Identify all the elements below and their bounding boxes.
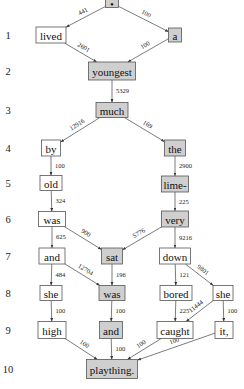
node-word: plaything. bbox=[90, 364, 135, 376]
node-word: it, bbox=[220, 325, 229, 337]
node-word: down bbox=[163, 251, 188, 263]
node-word: • bbox=[110, 0, 114, 10]
edge-arrow bbox=[223, 301, 224, 322]
edge-weight-label: 484 bbox=[55, 271, 65, 278]
edge-weight-label: 121 bbox=[180, 271, 190, 278]
edge-weight-label: 12704 bbox=[77, 262, 95, 277]
node-the: the bbox=[165, 140, 186, 156]
node-word: very bbox=[165, 214, 185, 226]
row-labels: 12345678910 bbox=[3, 30, 14, 375]
edge-arrow bbox=[175, 264, 176, 286]
edge-weight-label: 441 bbox=[77, 6, 89, 17]
node-word: a bbox=[173, 30, 178, 42]
row-label: 5 bbox=[5, 178, 10, 189]
row-label: 3 bbox=[5, 105, 10, 116]
node-word: lived bbox=[40, 30, 62, 42]
edge-weight-label: 12916 bbox=[68, 117, 86, 132]
node-a: a bbox=[169, 28, 182, 42]
edge-weight-label: 100 bbox=[135, 338, 147, 349]
node-plaything: plaything. bbox=[87, 360, 138, 379]
edge-weight-label: 196 bbox=[116, 271, 127, 278]
node-word: by bbox=[46, 143, 58, 155]
node-word: sat bbox=[106, 251, 118, 263]
edge-arrow bbox=[111, 301, 112, 322]
node-old: old bbox=[40, 176, 62, 191]
edge-weight-label: 2900 bbox=[179, 162, 192, 169]
node-root: • bbox=[106, 0, 119, 10]
node-word: caught bbox=[160, 325, 189, 337]
edge-arrow bbox=[51, 191, 52, 212]
node-caught: caught bbox=[157, 322, 193, 339]
edge-weight-label: 100 bbox=[139, 39, 151, 50]
row-label: 2 bbox=[5, 66, 10, 77]
row-label: 10 bbox=[3, 364, 14, 375]
edge-weight-label: 100 bbox=[116, 307, 126, 314]
node-lived: lived bbox=[36, 27, 66, 43]
node-word: old bbox=[44, 178, 59, 190]
edge-weight-label: 100 bbox=[115, 345, 125, 352]
node-word: youngest bbox=[92, 66, 132, 78]
edge-weight-label: 100 bbox=[141, 8, 153, 19]
node-youngest: youngest bbox=[89, 62, 136, 80]
node-word: much bbox=[100, 105, 125, 117]
edge-arrow bbox=[175, 301, 176, 322]
node-word: she bbox=[216, 288, 231, 300]
edge-weight-label: 100 bbox=[55, 307, 65, 314]
node-it: it, bbox=[215, 322, 233, 339]
node-was1: was bbox=[39, 212, 66, 227]
edge-arrow bbox=[51, 301, 52, 322]
node-bored: bored bbox=[160, 286, 192, 301]
row-label: 8 bbox=[5, 288, 10, 299]
node-word: was bbox=[103, 288, 120, 300]
node-word: and bbox=[103, 325, 119, 337]
node-high: high bbox=[38, 322, 66, 339]
node-by: by bbox=[42, 140, 61, 156]
node-was2: was bbox=[99, 286, 125, 301]
row-label: 4 bbox=[5, 143, 11, 154]
node-much: much bbox=[96, 103, 128, 118]
edge-weight-label: 9216 bbox=[179, 234, 193, 241]
edge-weight-label: 5329 bbox=[116, 87, 129, 94]
node-lime: lime- bbox=[162, 176, 189, 192]
word-lattice-diagram: 12345678910 4411002601100532912916169100… bbox=[0, 0, 244, 389]
node-she2: she bbox=[213, 286, 233, 301]
edge-arrow bbox=[111, 339, 112, 360]
edge-weight-label: 100 bbox=[79, 338, 91, 349]
node-word: was bbox=[43, 214, 60, 226]
node-down: down bbox=[160, 248, 191, 264]
edge-weight-label: 225 bbox=[179, 198, 189, 205]
node-word: the bbox=[168, 143, 182, 155]
node-word: lime- bbox=[163, 179, 187, 191]
node-she1: she bbox=[40, 286, 62, 301]
node-word: high bbox=[42, 325, 62, 337]
node-word: she bbox=[44, 288, 59, 300]
edge-weight-label: 100 bbox=[55, 162, 65, 169]
edge-weight-label: 324 bbox=[56, 197, 67, 204]
node-word: and bbox=[44, 251, 60, 263]
node-sat: sat bbox=[102, 248, 123, 264]
edge-weight-label: 100 bbox=[227, 307, 237, 314]
edge-weight-label: 169 bbox=[142, 119, 154, 130]
row-label: 9 bbox=[5, 325, 10, 336]
edge-labels: 4411002601100532912916169100290032422562… bbox=[55, 6, 237, 352]
edge-weight-label: 625 bbox=[56, 233, 66, 240]
node-and2: and bbox=[100, 322, 123, 339]
node-word: bored bbox=[163, 288, 189, 300]
row-label: 1 bbox=[5, 30, 10, 41]
row-label: 6 bbox=[5, 214, 10, 225]
node-and1: and bbox=[39, 248, 65, 264]
row-label: 7 bbox=[5, 251, 10, 262]
edge-arrow bbox=[51, 264, 52, 286]
edge-weight-label: 900 bbox=[80, 227, 92, 238]
node-very: very bbox=[162, 211, 189, 227]
nodes: •livedayoungestmuchbytheoldlime-wasverya… bbox=[36, 0, 233, 379]
